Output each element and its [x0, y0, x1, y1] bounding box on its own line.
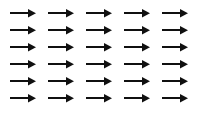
- arrow-r5-c2: [48, 77, 74, 86]
- arrow-head: [142, 60, 150, 69]
- arrow-r5-c1: [10, 77, 36, 86]
- right-arrow-icon: [48, 9, 74, 18]
- arrow-shaft: [10, 97, 28, 99]
- right-arrow-icon: [48, 94, 74, 103]
- arrow-shaft: [48, 97, 66, 99]
- arrow-shaft: [86, 46, 104, 48]
- arrow-r6-c2: [48, 94, 74, 103]
- arrow-r6-c4: [124, 94, 150, 103]
- arrow-head: [142, 9, 150, 18]
- right-arrow-icon: [86, 43, 112, 52]
- arrow-r6-c3: [86, 94, 112, 103]
- right-arrow-icon: [162, 77, 188, 86]
- right-arrow-icon: [10, 9, 36, 18]
- arrow-r1-c5: [162, 9, 188, 18]
- arrow-shaft: [10, 46, 28, 48]
- arrow-shaft: [162, 97, 180, 99]
- arrow-r3-c1: [10, 43, 36, 52]
- arrow-r1-c4: [124, 9, 150, 18]
- right-arrow-icon: [162, 26, 188, 35]
- arrow-head: [180, 26, 188, 35]
- right-arrow-icon: [86, 94, 112, 103]
- right-arrow-icon: [48, 43, 74, 52]
- arrow-shaft: [86, 63, 104, 65]
- arrow-head: [104, 94, 112, 103]
- arrow-shaft: [10, 80, 28, 82]
- arrow-shaft: [162, 63, 180, 65]
- right-arrow-icon: [86, 77, 112, 86]
- arrow-head: [28, 43, 36, 52]
- right-arrow-icon: [162, 9, 188, 18]
- arrow-r4-c5: [162, 60, 188, 69]
- arrow-shaft: [124, 97, 142, 99]
- arrow-shaft: [162, 46, 180, 48]
- arrow-shaft: [86, 29, 104, 31]
- right-arrow-icon: [86, 60, 112, 69]
- arrow-r2-c3: [86, 26, 112, 35]
- arrow-shaft: [124, 29, 142, 31]
- arrow-shaft: [124, 63, 142, 65]
- arrow-head: [28, 60, 36, 69]
- arrow-head: [66, 60, 74, 69]
- arrow-r2-c2: [48, 26, 74, 35]
- arrow-shaft: [48, 80, 66, 82]
- right-arrow-icon: [10, 94, 36, 103]
- right-arrow-icon: [124, 26, 150, 35]
- arrow-r2-c1: [10, 26, 36, 35]
- arrow-head: [142, 77, 150, 86]
- arrow-r4-c4: [124, 60, 150, 69]
- arrow-r3-c2: [48, 43, 74, 52]
- right-arrow-icon: [124, 9, 150, 18]
- arrow-r3-c3: [86, 43, 112, 52]
- arrow-r1-c1: [10, 9, 36, 18]
- arrow-head: [180, 77, 188, 86]
- arrow-head: [104, 9, 112, 18]
- arrow-shaft: [124, 80, 142, 82]
- arrow-head: [180, 94, 188, 103]
- arrow-head: [180, 9, 188, 18]
- arrow-r2-c4: [124, 26, 150, 35]
- arrow-r3-c5: [162, 43, 188, 52]
- right-arrow-icon: [86, 9, 112, 18]
- arrow-r1-c2: [48, 9, 74, 18]
- arrow-r6-c5: [162, 94, 188, 103]
- right-arrow-icon: [162, 60, 188, 69]
- arrow-shaft: [124, 12, 142, 14]
- arrow-r3-c4: [124, 43, 150, 52]
- arrow-shaft: [86, 97, 104, 99]
- arrow-r6-c1: [10, 94, 36, 103]
- arrow-head: [180, 43, 188, 52]
- arrow-head: [28, 9, 36, 18]
- arrow-r2-c5: [162, 26, 188, 35]
- arrow-shaft: [10, 12, 28, 14]
- right-arrow-icon: [86, 26, 112, 35]
- arrow-head: [66, 94, 74, 103]
- arrow-shaft: [48, 63, 66, 65]
- arrow-r5-c5: [162, 77, 188, 86]
- arrow-head: [142, 26, 150, 35]
- right-arrow-icon: [162, 94, 188, 103]
- arrow-shaft: [124, 46, 142, 48]
- arrow-head: [28, 26, 36, 35]
- arrow-head: [142, 94, 150, 103]
- arrow-r4-c3: [86, 60, 112, 69]
- arrow-head: [104, 77, 112, 86]
- right-arrow-icon: [48, 26, 74, 35]
- right-arrow-icon: [10, 43, 36, 52]
- arrow-head: [66, 77, 74, 86]
- arrow-head: [104, 60, 112, 69]
- right-arrow-icon: [124, 43, 150, 52]
- arrow-head: [104, 26, 112, 35]
- arrow-head: [66, 26, 74, 35]
- arrow-head: [28, 77, 36, 86]
- arrow-shaft: [86, 12, 104, 14]
- arrow-r5-c4: [124, 77, 150, 86]
- arrow-shaft: [162, 80, 180, 82]
- arrow-r4-c2: [48, 60, 74, 69]
- arrow-shaft: [10, 29, 28, 31]
- right-arrow-icon: [10, 60, 36, 69]
- right-arrow-icon: [124, 60, 150, 69]
- arrow-head: [66, 43, 74, 52]
- arrow-head: [104, 43, 112, 52]
- arrow-grid-figure: [0, 0, 200, 122]
